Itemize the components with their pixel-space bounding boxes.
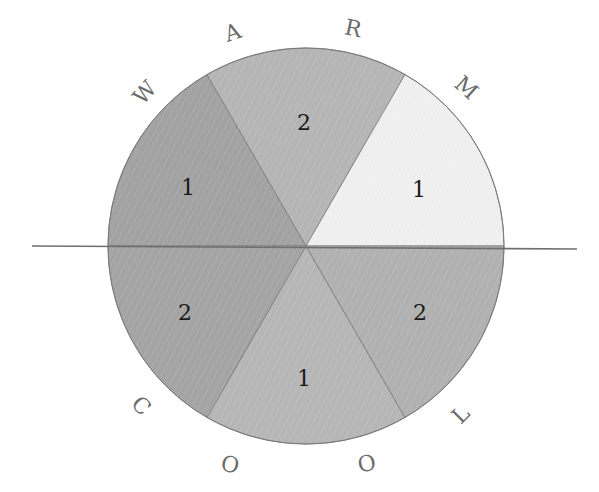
warm-letter-1: A — [220, 18, 245, 47]
warm-letter-3: M — [450, 71, 483, 105]
sector-value-upper-right: 1 — [412, 177, 426, 202]
cool-letter-0: C — [127, 391, 157, 421]
sector-value-lower-mid: 1 — [297, 366, 311, 391]
warm-letter-2: R — [342, 15, 365, 43]
sector-value-upper-mid: 2 — [297, 110, 311, 135]
cool-letter-2: O — [355, 449, 378, 477]
pie-diagram-canvas: 121212 WARMCOOL — [0, 0, 599, 492]
sector-value-upper-left: 1 — [181, 175, 195, 200]
warm-cool-pie-diagram: 121212 WARMCOOL — [0, 0, 599, 492]
sector-value-lower-left: 2 — [178, 300, 192, 325]
warm-letter-0: W — [128, 76, 162, 110]
cool-letter-1: O — [219, 450, 242, 478]
cool-letter-3: L — [447, 400, 475, 428]
sector-value-lower-right: 2 — [413, 300, 427, 325]
